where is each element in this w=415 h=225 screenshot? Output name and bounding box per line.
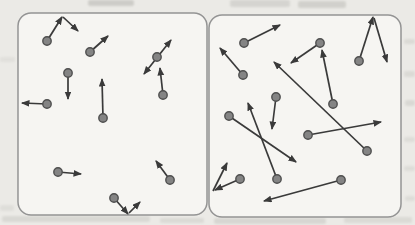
right-gas-box xyxy=(209,15,401,217)
molecule-dot xyxy=(43,100,51,108)
molecule-dot xyxy=(110,194,118,202)
scan-smudge xyxy=(2,216,150,222)
molecule-dot xyxy=(159,91,167,99)
scan-smudge xyxy=(404,166,415,171)
scan-smudge xyxy=(404,137,415,142)
scan-smudge xyxy=(214,218,326,224)
scan-smudge xyxy=(0,57,15,62)
molecule-dot xyxy=(99,114,107,122)
scan-smudge xyxy=(404,39,415,44)
right-gas-box-group xyxy=(209,15,401,217)
scan-smudge xyxy=(405,100,415,106)
molecule-dot xyxy=(239,71,247,79)
scan-smudge xyxy=(88,0,134,6)
scan-smudge xyxy=(404,71,415,77)
molecule-dot xyxy=(86,48,94,56)
molecule-dot xyxy=(153,53,161,61)
figure-canvas xyxy=(0,0,415,225)
molecule-dot xyxy=(240,39,248,47)
scan-smudge xyxy=(405,196,415,201)
diagram-svg xyxy=(0,0,415,225)
molecule-dot xyxy=(337,176,345,184)
molecule-dot xyxy=(54,168,62,176)
molecule-dot xyxy=(316,39,324,47)
molecule-dot xyxy=(166,176,174,184)
molecule-dot xyxy=(64,69,72,77)
molecule-dot xyxy=(273,175,281,183)
scan-smudge xyxy=(0,205,14,211)
left-gas-box-group xyxy=(18,13,207,215)
molecule-dot xyxy=(272,93,280,101)
molecule-dot xyxy=(43,37,51,45)
scan-smudge xyxy=(160,218,204,223)
scan-smudge xyxy=(298,1,346,8)
scan-smudge xyxy=(230,0,290,7)
molecule-dot xyxy=(236,175,244,183)
molecule-dot xyxy=(329,100,337,108)
molecule-dot xyxy=(225,112,233,120)
molecule-dot xyxy=(304,131,312,139)
molecule-dot xyxy=(363,147,371,155)
molecule-dot xyxy=(355,57,363,65)
scan-smudge xyxy=(344,217,412,223)
velocity-arrow xyxy=(102,79,103,118)
gas-boxes-layer xyxy=(18,13,401,217)
